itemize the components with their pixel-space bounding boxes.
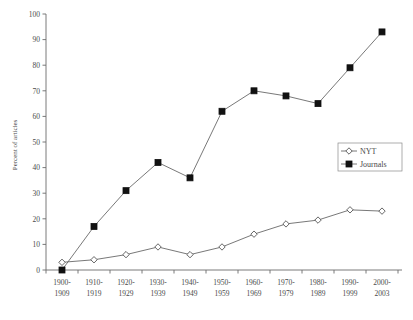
- data-point-marker: [187, 251, 193, 257]
- y-tick-label: 0: [36, 266, 40, 275]
- x-tick-label: 1900-: [53, 278, 71, 287]
- x-tick-label: 1910-: [85, 278, 103, 287]
- y-tick-label: 30: [33, 189, 41, 198]
- y-tick-label: 100: [29, 10, 41, 19]
- data-point-marker: [91, 257, 97, 263]
- x-tick-label: 1969: [247, 289, 262, 298]
- data-point-marker: [283, 221, 289, 227]
- y-tick-label: 50: [33, 138, 41, 147]
- x-tick-label: 1959: [215, 289, 230, 298]
- data-point-marker: [219, 244, 225, 250]
- x-tick-label: 2003: [375, 289, 390, 298]
- y-axis: 0102030405060708090100: [29, 10, 46, 275]
- data-point-marker: [251, 231, 257, 237]
- data-point-marker: [315, 217, 321, 223]
- x-tick-label: 1930-: [149, 278, 167, 287]
- legend-label-nyt: NYT: [360, 147, 377, 156]
- series-line: [62, 32, 382, 270]
- y-tick-label: 20: [33, 215, 41, 224]
- chart-legend: NYTJournals: [338, 143, 402, 171]
- data-point-marker: [155, 244, 161, 250]
- y-tick-label: 40: [33, 163, 41, 172]
- data-point-marker: [187, 175, 193, 181]
- y-axis-title: Percent of articles: [11, 119, 19, 170]
- data-point-marker: [91, 223, 97, 229]
- x-tick-label: 1919: [87, 289, 102, 298]
- x-tick-label: 1950-: [213, 278, 231, 287]
- series-journals: [59, 29, 385, 273]
- y-tick-label: 60: [33, 112, 41, 121]
- data-series-group: [59, 29, 385, 273]
- data-point-marker: [347, 65, 353, 71]
- legend-label-journals: Journals: [360, 160, 387, 169]
- y-tick-label: 90: [33, 35, 41, 44]
- data-point-marker: [379, 208, 385, 214]
- y-tick-label: 10: [33, 240, 41, 249]
- x-tick-label: 1929: [119, 289, 134, 298]
- x-tick-label: 1909: [55, 289, 70, 298]
- data-point-marker: [123, 251, 129, 257]
- y-tick-label: 80: [33, 61, 41, 70]
- x-tick-label: 1960-: [245, 278, 263, 287]
- x-tick-label: 1979: [279, 289, 294, 298]
- data-point-marker: [155, 159, 161, 165]
- x-tick-label: 2000-: [373, 278, 391, 287]
- data-point-marker: [59, 267, 65, 273]
- data-point-marker: [315, 101, 321, 107]
- data-point-marker: [347, 207, 353, 213]
- x-tick-label: 1939: [151, 289, 166, 298]
- x-tick-label: 1970-: [277, 278, 295, 287]
- data-point-marker: [251, 88, 257, 94]
- y-tick-label: 70: [33, 87, 41, 96]
- line-chart: 0102030405060708090100 1900-19091910-191…: [0, 0, 413, 320]
- x-tick-label: 1920-: [117, 278, 135, 287]
- data-point-marker: [379, 29, 385, 35]
- x-tick-label: 1980-: [309, 278, 327, 287]
- chart-container: 0102030405060708090100 1900-19091910-191…: [0, 0, 413, 320]
- x-tick-label: 1940-: [181, 278, 199, 287]
- x-tick-label: 1999: [343, 289, 358, 298]
- data-point-marker: [346, 161, 352, 167]
- x-tick-label: 1989: [311, 289, 326, 298]
- data-point-marker: [283, 93, 289, 99]
- series-nyt: [59, 207, 385, 266]
- data-point-marker: [123, 188, 129, 194]
- data-point-marker: [59, 259, 65, 265]
- data-point-marker: [219, 108, 225, 114]
- series-line: [62, 210, 382, 262]
- x-tick-label: 1990-: [341, 278, 359, 287]
- x-tick-label: 1949: [183, 289, 198, 298]
- x-axis: 1900-19091910-19191920-19291930-19391940…: [46, 270, 402, 298]
